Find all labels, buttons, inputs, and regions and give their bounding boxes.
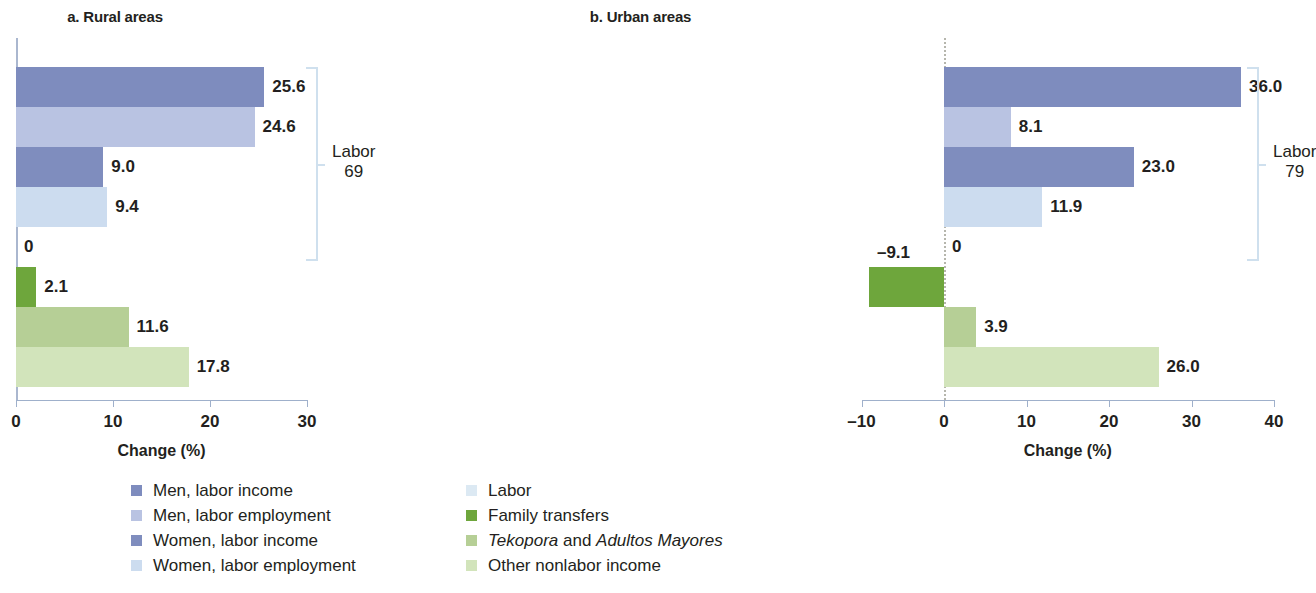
x-tick-label-a-2: 20 [201,412,220,432]
bar-value-label-b-4: 0 [952,238,961,255]
legend-item-left-1[interactable]: Men, labor employment [131,503,356,528]
bar-a-3 [16,187,107,227]
x-tick-b-2 [1027,400,1028,407]
legend-label-left-2: Women, labor income [153,532,318,549]
x-tick-b-3 [1109,400,1110,407]
bar-value-label-a-6: 11.6 [137,318,169,335]
bar-b-1 [944,107,1011,147]
bar-value-label-a-4: 0 [24,238,33,255]
bar-a-1 [16,107,255,147]
legend-item-right-3[interactable]: Other nonlabor income [466,553,723,578]
bar-a-2 [16,147,103,187]
legend-swatch-icon-other_nonlabor_income [466,560,477,571]
x-tick-label-b-1: 0 [939,412,948,432]
bracket-bottom-tip [1247,259,1257,261]
legend-item-left-2[interactable]: Women, labor income [131,528,356,553]
bracket-bottom-tip [306,259,316,261]
bar-value-label-b-6: 3.9 [984,318,1008,335]
legend-item-left-0[interactable]: Men, labor income [131,478,356,503]
bracket-top-tip [1247,67,1257,69]
x-axis-line-a [16,400,307,401]
x-tick-label-b-0: –10 [847,412,875,432]
legend-swatch-icon-women_labor_income [131,535,142,546]
legend-label-left-1: Men, labor employment [153,507,331,524]
x-axis-title-b: Change (%) [1024,442,1112,460]
bar-a-5 [16,267,36,307]
bar-a-0 [16,67,264,107]
bar-value-label-a-3: 9.4 [115,198,139,215]
legend-label-right-2: Tekopora and Adultos Mayores [488,532,723,549]
x-tick-label-a-1: 10 [104,412,123,432]
legend-label-right-1: Family transfers [488,507,609,524]
labor-bracket-label-line2: 79 [1273,162,1316,182]
bar-value-label-b-3: 11.9 [1050,198,1082,215]
panel-b-title: b. Urban areas [358,8,923,25]
labor-bracket-label-line1: Labor [1273,142,1316,162]
bar-b-2 [944,147,1134,187]
bar-value-label-a-0: 25.6 [272,78,305,95]
legend-label-right-3: Other nonlabor income [488,557,661,574]
legend-column-left: Men, labor incomeMen, labor employmentWo… [131,478,356,578]
legend-label-left-3: Women, labor employment [153,557,356,574]
legend-swatch-icon-labor [466,485,477,496]
bar-value-label-a-5: 2.1 [44,278,68,295]
legend-item-right-1[interactable]: Family transfers [466,503,723,528]
x-tick-b-5 [1274,400,1275,407]
x-tick-label-a-3: 30 [298,412,317,432]
legend-item-left-3[interactable]: Women, labor employment [131,553,356,578]
x-tick-a-1 [113,400,114,407]
legend-swatch-icon-family_transfers [466,510,477,521]
legend-column-right: LaborFamily transfersTekopora and Adulto… [466,478,723,578]
bar-b-5 [869,267,944,307]
x-tick-label-b-2: 10 [1017,412,1036,432]
x-axis-title-a: Change (%) [118,442,206,460]
panel-urban-areas: b. Urban areas 36.08.123.011.90–9.13.926… [420,0,985,470]
legend-label-right-0: Labor [488,482,531,499]
legend-label-left-0: Men, labor income [153,482,293,499]
bracket-middle-tip [1257,164,1266,166]
legend-item-right-0[interactable]: Labor [466,478,723,503]
x-tick-b-1 [944,400,945,407]
x-tick-b-4 [1192,400,1193,407]
legend: Men, labor incomeMen, labor employmentWo… [0,478,985,593]
bar-value-label-b-5: –9.1 [877,244,910,261]
bar-value-label-b-7: 26.0 [1167,358,1200,375]
x-tick-a-3 [307,400,308,407]
plot-area-urban: 36.08.123.011.90–9.13.926.0–10010203040C… [944,38,1276,400]
labor-bracket-label-line1: Labor [332,142,375,162]
x-tick-label-b-5: 40 [1265,412,1284,432]
bar-a-7 [16,347,189,387]
bracket-top-tip [306,67,316,69]
labor-bracket-label-line2: 69 [332,162,375,182]
bar-value-label-a-2: 9.0 [111,158,135,175]
panel-a-title: a. Rural areas [0,8,350,25]
x-tick-label-a-0: 0 [11,412,20,432]
bar-value-label-b-2: 23.0 [1142,158,1175,175]
legend-item-right-2[interactable]: Tekopora and Adultos Mayores [466,528,723,553]
bar-b-3 [944,187,1042,227]
x-axis-line-b [862,400,1275,401]
bar-a-6 [16,307,129,347]
bar-value-label-b-1: 8.1 [1019,118,1043,135]
legend-swatch-icon-tekopora_adultos [466,535,477,546]
labor-bracket-label-b: Labor79 [1273,142,1316,182]
x-tick-label-b-3: 20 [1100,412,1119,432]
bar-b-7 [944,347,1159,387]
panel-rural-areas: a. Rural areas 25.624.69.09.402.111.617.… [0,0,470,470]
bar-value-label-a-1: 24.6 [263,118,296,135]
bar-b-6 [944,307,976,347]
plot-area-rural: 25.624.69.09.402.111.617.80102030Change … [16,38,316,400]
x-tick-label-b-4: 30 [1182,412,1201,432]
legend-swatch-icon-women_labor_employment [131,560,142,571]
bar-b-0 [944,67,1241,107]
x-tick-a-0 [16,400,17,407]
x-tick-b-0 [862,400,863,407]
bar-value-label-b-0: 36.0 [1249,78,1282,95]
x-tick-a-2 [210,400,211,407]
bracket-middle-tip [316,164,325,166]
bar-value-label-a-7: 17.8 [197,358,230,375]
legend-swatch-icon-men_labor_employment [131,510,142,521]
legend-swatch-icon-men_labor_income [131,485,142,496]
labor-bracket-label-a: Labor69 [332,142,375,182]
